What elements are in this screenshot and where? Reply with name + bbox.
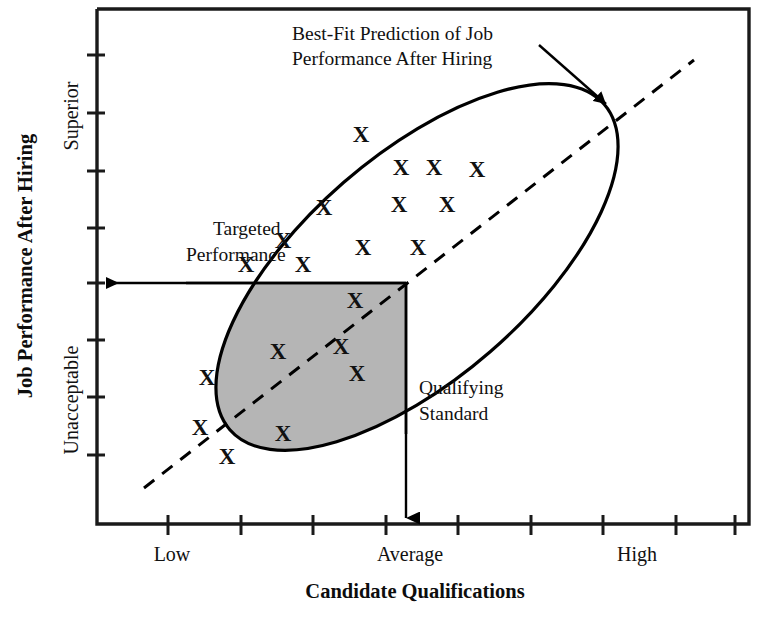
shaded-area-fill xyxy=(156,20,677,514)
targeted-annotation-line2: Performance xyxy=(186,244,286,265)
best-fit-callout-arrow xyxy=(539,45,606,104)
data-point-marker: X xyxy=(347,288,364,313)
plot-content: X X X X X X X X X X X X X X X X X X X X xyxy=(144,20,694,514)
data-point-marker: X xyxy=(192,415,209,440)
scatter-chart-figure: X X X X X X X X X X X X X X X X X X X X xyxy=(0,0,766,617)
data-point-marker: X xyxy=(275,421,292,446)
data-point-marker: X xyxy=(199,365,216,390)
best-fit-annotation-line2: Performance After Hiring xyxy=(292,48,493,69)
y-label-unacceptable: Unacceptable xyxy=(60,345,83,454)
shaded-region xyxy=(156,20,677,514)
data-point-marker: X xyxy=(219,444,236,469)
data-point-marker: X xyxy=(353,122,370,147)
x-label-high: High xyxy=(617,543,657,566)
y-axis-labels: Superior Unacceptable xyxy=(60,81,83,454)
frame-border xyxy=(97,9,749,524)
plot-frame xyxy=(97,9,749,524)
data-point-marker: X xyxy=(270,339,287,364)
x-axis-title: Candidate Qualifications xyxy=(305,580,524,602)
targeted-annotation-line1: Targeted xyxy=(213,218,281,239)
x-label-low: Low xyxy=(154,543,191,565)
qualifying-annotation-line1: Qualifying xyxy=(419,377,504,398)
data-point-marker: X xyxy=(393,155,410,180)
data-point-marker: X xyxy=(426,155,443,180)
x-axis-labels: Low Average High xyxy=(154,543,657,566)
data-point-marker: X xyxy=(391,192,408,217)
best-fit-annotation-line1: Best-Fit Prediction of Job xyxy=(292,23,493,44)
best-fit-annotation: Best-Fit Prediction of Job Performance A… xyxy=(292,23,606,104)
data-point-marker: X xyxy=(295,252,312,277)
data-point-marker: X xyxy=(316,195,333,220)
data-point-marker: X xyxy=(355,235,372,260)
data-point-marker: X xyxy=(439,192,456,217)
qualifying-standard-annotation: Qualifying Standard xyxy=(406,283,504,518)
y-axis-title: Job Performance After Hiring xyxy=(14,133,37,398)
qualifying-annotation-line2: Standard xyxy=(419,403,489,424)
x-label-average: Average xyxy=(377,543,443,566)
data-point-marker: X xyxy=(469,157,486,182)
y-label-superior: Superior xyxy=(60,81,83,150)
job-performance-scatter-chart: X X X X X X X X X X X X X X X X X X X X xyxy=(0,0,766,617)
data-point-marker: X xyxy=(410,235,427,260)
data-point-marker: X xyxy=(333,334,350,359)
scatter-envelope-ellipse xyxy=(156,20,677,514)
data-point-marker: X xyxy=(349,361,366,386)
